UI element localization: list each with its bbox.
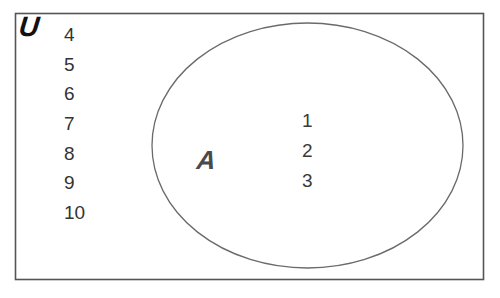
universe-label: U (18, 13, 41, 41)
set-a-elements-list: 1 2 3 (302, 111, 322, 201)
venn-diagram: U 4 5 6 7 8 9 10 A 1 2 3 (0, 0, 500, 298)
universe-element: 8 (64, 144, 94, 174)
universe-element: 6 (64, 84, 94, 114)
set-a-element: 1 (302, 111, 322, 141)
universe-element: 9 (64, 173, 94, 203)
set-a-element: 3 (302, 171, 322, 201)
universe-elements-list: 4 5 6 7 8 9 10 (64, 25, 94, 233)
universe-element: 7 (64, 114, 94, 144)
universe-element: 5 (64, 55, 94, 85)
set-a-label: A (196, 147, 218, 173)
universe-element: 10 (64, 203, 94, 233)
universe-element: 4 (64, 25, 94, 55)
set-a-element: 2 (302, 141, 322, 171)
